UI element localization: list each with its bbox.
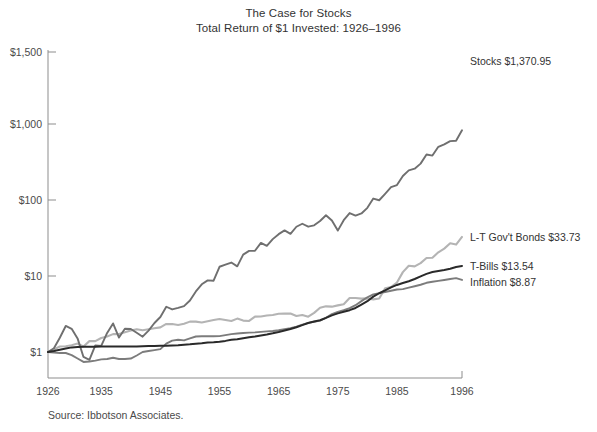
series-line-inflation xyxy=(48,278,462,362)
x-axis-tick-label: 1996 xyxy=(450,385,474,397)
series-line-stocks xyxy=(48,130,462,360)
y-axis-tick-label: $10 xyxy=(24,270,42,282)
series-label-inflation: Inflation $8.87 xyxy=(470,276,536,288)
series-line-l-t-gov-t-bonds xyxy=(48,237,462,352)
y-axis-tick-label: $1,500 xyxy=(10,46,42,58)
chart-plot: $1$10$100$1,000$1,500 192619351945195519… xyxy=(0,0,597,432)
source-note: Source: Ibbotson Associates. xyxy=(48,409,183,421)
y-axis-tick-label: $100 xyxy=(19,194,43,206)
y-axis-tick-label: $1 xyxy=(30,346,42,358)
series-label-t-bills: T-Bills $13.54 xyxy=(470,260,534,272)
x-axis-tick-label: 1945 xyxy=(149,385,173,397)
series-label-l-t-gov-t-bonds: L-T Gov't Bonds $33.73 xyxy=(470,231,581,243)
y-axis-tick-label: $1,000 xyxy=(10,118,42,130)
y-ticks-group: $1$10$100$1,000$1,500 xyxy=(10,46,56,358)
series-group xyxy=(48,130,462,362)
x-axis-tick-label: 1955 xyxy=(208,385,232,397)
x-axis-tick-label: 1926 xyxy=(36,385,60,397)
chart-container: The Case for Stocks Total Return of $1 I… xyxy=(0,0,597,432)
x-axis-tick-label: 1985 xyxy=(385,385,409,397)
x-axis-tick-label: 1965 xyxy=(267,385,291,397)
x-ticks-group: 19261935194519551965197519851996 xyxy=(36,385,474,397)
series-label-stocks: Stocks $1,370.95 xyxy=(470,55,551,67)
x-axis-tick-label: 1975 xyxy=(326,385,350,397)
series-labels-group: Stocks $1,370.95L-T Gov't Bonds $33.73T-… xyxy=(470,55,581,288)
x-axis-tick-label: 1935 xyxy=(90,385,114,397)
